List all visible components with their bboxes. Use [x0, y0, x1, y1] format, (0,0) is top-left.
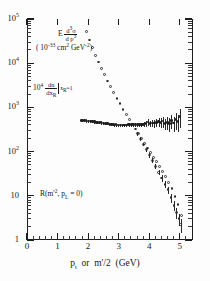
cross-section-fraction: d3σ d p3: [64, 27, 77, 42]
x-tick-minor: [94, 236, 95, 240]
x-tick-major-top: [179, 19, 180, 25]
y-tick-minor: [27, 76, 31, 77]
x-tick-minor: [106, 236, 107, 240]
x-tick-label: 4: [141, 242, 157, 251]
y-tick-minor: [27, 164, 31, 165]
y-tick-minor-right: [188, 36, 192, 37]
y-tick-major-right: [185, 107, 192, 108]
y-tick-minor-right: [188, 169, 192, 170]
y-tick-minor-right: [188, 21, 192, 22]
y-tick-major: [27, 151, 34, 152]
y-tick-minor-right: [188, 49, 192, 50]
x-tick-minor: [75, 236, 76, 240]
y-tick-major-right: [185, 18, 192, 19]
y-tick-label: 102: [8, 147, 20, 156]
y-tick-minor-right: [188, 94, 192, 95]
y-tick-major: [27, 107, 34, 108]
y-tick-minor: [27, 200, 31, 201]
y-tick-minor-right: [188, 25, 192, 26]
error-bar: [178, 115, 179, 132]
y-tick-major: [27, 195, 34, 196]
data-point-filled: [177, 120, 180, 123]
y-tick-minor-right: [188, 32, 192, 33]
y-tick-minor: [27, 80, 31, 81]
y-tick-minor: [27, 25, 31, 26]
y-tick-major-right: [185, 151, 192, 152]
y-tick-minor: [27, 109, 31, 110]
annotation-cross-section: E d3σ d p3: [58, 27, 77, 42]
y-tick-minor-right: [188, 197, 192, 198]
y-tick-minor-right: [188, 114, 192, 115]
y-tick-minor: [27, 213, 31, 214]
y-tick-minor-right: [188, 124, 192, 125]
x-tick-label: 5: [172, 242, 188, 251]
y-tick-minor: [27, 130, 31, 131]
x-tick-minor: [167, 236, 168, 240]
data-point-open: [100, 67, 103, 70]
y-tick-minor-right: [188, 164, 192, 165]
y-tick-minor: [27, 138, 31, 139]
x-tick-label: 3: [111, 242, 127, 251]
y-tick-major-right: [185, 63, 192, 64]
x-tick-minor: [82, 236, 83, 240]
y-tick-label: 104: [8, 58, 20, 67]
dn-dx-condition: xR=1: [60, 85, 72, 91]
annotation-dn-dx: 104 dn dxR xR=1: [33, 81, 72, 96]
y-tick-minor-right: [188, 161, 192, 162]
cross-section-prefix: E: [58, 29, 63, 38]
x-tick-major-top: [149, 19, 150, 25]
y-tick-label: 105: [8, 14, 20, 23]
data-point-open: [180, 214, 183, 217]
data-point-open: [125, 113, 128, 116]
x-tick-major: [26, 233, 27, 240]
x-tick-major: [88, 233, 89, 240]
data-point-open: [164, 183, 167, 186]
data-point-filled: [172, 122, 175, 125]
annotation-ratio: R(m'2, pL = 0): [40, 189, 83, 198]
y-tick-minor-right: [188, 202, 192, 203]
data-point-open: [128, 118, 131, 121]
x-tick-minor: [155, 236, 156, 240]
y-tick-minor-right: [188, 209, 192, 210]
y-tick-minor: [27, 23, 31, 24]
y-tick-minor: [27, 114, 31, 115]
x-tick-label: 1: [50, 242, 66, 251]
y-tick-minor: [27, 111, 31, 112]
y-tick-minor: [27, 94, 31, 95]
y-tick-minor: [27, 86, 31, 87]
x-title-rest: /2 (GeV): [103, 258, 139, 268]
y-tick-minor: [27, 124, 31, 125]
y-tick-minor-right: [188, 218, 192, 219]
y-tick-minor: [27, 67, 31, 68]
x-tick-major-top: [88, 19, 89, 25]
y-tick-minor-right: [188, 213, 192, 214]
x-tick-minor: [130, 236, 131, 240]
y-tick-minor-right: [188, 226, 192, 227]
data-point-open: [145, 148, 148, 151]
y-tick-minor-right: [188, 117, 192, 118]
y-tick-minor-right: [188, 182, 192, 183]
y-tick-minor: [27, 65, 31, 66]
x-tick-minor: [100, 236, 101, 240]
y-tick-minor: [27, 174, 31, 175]
y-tick-minor: [27, 158, 31, 159]
x-tick-minor: [143, 236, 144, 240]
y-tick-minor-right: [188, 158, 192, 159]
y-tick-label: 10: [11, 191, 20, 200]
x-tick-label: 0: [19, 242, 35, 251]
data-point-open: [175, 211, 178, 214]
x-tick-minor: [124, 236, 125, 240]
y-tick-minor: [27, 182, 31, 183]
y-tick-minor-right: [188, 130, 192, 131]
y-tick-minor: [27, 117, 31, 118]
x-tick-major-top: [26, 19, 27, 25]
x-title-or: or m': [77, 258, 104, 268]
data-point-open: [142, 143, 145, 146]
y-tick-minor-right: [188, 200, 192, 201]
y-tick-minor: [27, 209, 31, 210]
y-tick-minor: [27, 202, 31, 203]
y-tick-minor-right: [188, 28, 192, 29]
y-tick-minor-right: [188, 155, 192, 156]
x-tick-major: [149, 233, 150, 240]
y-tick-minor-right: [188, 42, 192, 43]
